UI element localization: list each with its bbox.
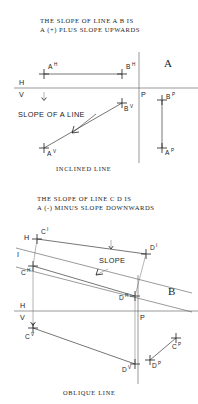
figure-a-point-av: A V bbox=[39, 143, 57, 157]
figure-b-top-view-line bbox=[33, 266, 135, 296]
figure-a-point-ah-superscript: H bbox=[54, 62, 57, 67]
figure-b-point-ch-superscript: H bbox=[27, 268, 30, 273]
figure-a-point-bh-label: B bbox=[126, 63, 131, 70]
figure-a-point-ap-label: A bbox=[165, 149, 170, 156]
figure-b-aux-fold-line-secondary bbox=[16, 267, 192, 312]
figure-b-point-dp-superscript: P bbox=[158, 361, 161, 366]
figure-a-point-av-label: A bbox=[47, 150, 52, 157]
figure-a-point-bp-superscript: P bbox=[172, 92, 175, 97]
figure-a-point-bv-label: B bbox=[124, 105, 129, 112]
figure-b-point-cp: C P bbox=[171, 333, 181, 350]
figure-b-point-dh-superscript: H bbox=[125, 293, 128, 298]
figure-a: THE SLOPE OF LINE A B IS A (+) PLUS SLOP… bbox=[14, 17, 198, 172]
figure-b-point-cv-label: C bbox=[25, 333, 30, 340]
figure-b-point-di: D I bbox=[141, 243, 157, 259]
figure-a-title-line-2: A (+) PLUS SLOPE UPWARDS bbox=[40, 26, 140, 34]
figure-a-caption: INCLINED LINE bbox=[56, 165, 111, 172]
figure-a-fold-label-p: P bbox=[141, 90, 146, 99]
figure-a-point-bp: B P bbox=[157, 92, 175, 105]
orthographic-projection-plate: THE SLOPE OF LINE A B IS A (+) PLUS SLOP… bbox=[0, 0, 198, 404]
figure-b-point-dv-superscript: V bbox=[128, 365, 132, 370]
figure-a-plate-label: A bbox=[164, 57, 172, 69]
figure-a-fold-label-h: H bbox=[19, 78, 24, 87]
figure-a-fold-label-v: V bbox=[19, 90, 24, 99]
figure-b-point-ci-superscript: I bbox=[47, 227, 48, 232]
figure-b-fold-label-aux-i: I bbox=[17, 250, 19, 259]
figure-b-projector-d-aux bbox=[135, 254, 146, 296]
figure-b-point-dh-label: D bbox=[119, 294, 124, 301]
figure-b-point-dv-label: D bbox=[122, 366, 127, 373]
figure-a-point-bh: B H bbox=[117, 62, 135, 79]
figure-b-aux-view-line bbox=[37, 239, 146, 254]
figure-b-plate-label: B bbox=[168, 285, 175, 297]
figure-b-point-ci-label: C bbox=[41, 228, 46, 235]
figure-b-fold-label-p: P bbox=[140, 313, 145, 322]
figure-b: THE SLOPE OF LINE C D IS A (-) MINUS SLO… bbox=[14, 195, 198, 396]
figure-a-point-ah-label: A bbox=[48, 63, 53, 70]
figure-b-point-cv-superscript: V bbox=[31, 332, 35, 337]
figure-b-point-cp-label: C bbox=[172, 343, 177, 350]
figure-a-point-av-superscript: V bbox=[53, 149, 57, 154]
figure-b-point-ch: C H bbox=[21, 261, 38, 276]
figure-a-point-ap: A P bbox=[157, 143, 174, 156]
figure-b-slope-annotation: SLOPE bbox=[99, 256, 125, 265]
figure-b-point-ci: C I bbox=[32, 227, 48, 244]
figure-b-point-di-superscript: I bbox=[156, 243, 157, 248]
figure-a-title-line-1: THE SLOPE OF LINE A B IS bbox=[40, 17, 134, 24]
figure-b-point-di-label: D bbox=[150, 244, 155, 251]
figure-b-point-ch-label: C bbox=[21, 269, 26, 276]
figure-b-point-cv: C V bbox=[25, 323, 38, 340]
figure-a-slope-annotation: SLOPE OF A LINE bbox=[18, 110, 85, 119]
figure-b-title-line-2: A (-) MINUS SLOPE DOWNWARDS bbox=[37, 204, 154, 212]
figure-a-point-bh-superscript: H bbox=[132, 62, 135, 67]
figure-b-point-cp-superscript: P bbox=[178, 342, 181, 347]
figure-a-point-bv: B V bbox=[117, 98, 134, 112]
figure-b-fold-label-v: V bbox=[20, 313, 25, 322]
figure-b-fold-label-h: H bbox=[20, 301, 25, 310]
figure-b-title-line-1: THE SLOPE OF LINE C D IS bbox=[37, 195, 132, 202]
figure-a-point-bv-superscript: V bbox=[130, 104, 134, 109]
figure-b-point-dv: D V bbox=[122, 359, 140, 373]
figure-a-point-ah: A H bbox=[39, 62, 57, 79]
figure-b-front-view-line bbox=[33, 328, 135, 364]
figure-a-point-bp-label: B bbox=[166, 93, 171, 100]
drawing-sheet: THE SLOPE OF LINE A B IS A (+) PLUS SLOP… bbox=[0, 0, 198, 404]
figure-b-fold-label-aux-h: H bbox=[24, 233, 29, 242]
figure-b-caption: OBLIQUE LINE bbox=[63, 389, 116, 396]
figure-b-aux-fold-line bbox=[16, 248, 192, 293]
figure-b-point-dp-label: D bbox=[152, 362, 157, 369]
figure-a-point-ap-superscript: P bbox=[171, 148, 174, 153]
